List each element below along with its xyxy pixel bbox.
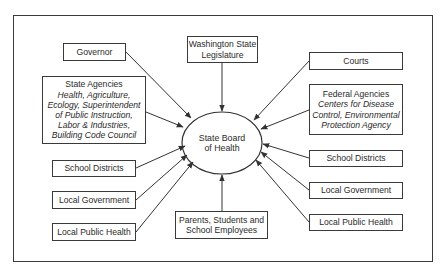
node-title: Courts (343, 56, 368, 66)
node-title: Governor (77, 47, 113, 57)
node-title: School Districts (64, 163, 123, 173)
node-detail-line: Building Code Council (52, 130, 137, 140)
node-detail-line: Protection Agency (321, 120, 390, 130)
edge-local-government-left (136, 155, 187, 200)
node-title-line-2: Legislature (201, 50, 243, 60)
node-school-districts-left: School Districts (52, 160, 136, 177)
node-local-public-health-left: Local Public Health (52, 223, 136, 241)
node-local-public-health-right: Local Public Health (309, 214, 403, 231)
node-local-government-right: Local Government (309, 182, 403, 199)
edge-local-government-right (261, 152, 309, 190)
edge-courts (254, 61, 309, 120)
node-parents-students-school-employees: Parents, Students and School Employees (175, 211, 268, 239)
node-detail-line: Health, Agriculture, (58, 90, 131, 100)
edge-state-agencies (146, 112, 183, 127)
node-title: Local Government (321, 185, 391, 195)
node-detail-line: of Public Instruction, (55, 110, 132, 120)
node-title-line-1: Parents, Students and (179, 215, 264, 225)
center-label-line-2: of Health (204, 143, 239, 153)
node-detail-line: Ecology, Superintendent (47, 100, 140, 110)
node-federal-agencies: Federal Agencies Centers for Disease Con… (309, 84, 403, 135)
node-detail-line: Centers for Disease (318, 99, 394, 109)
edge-federal-agencies (261, 110, 309, 129)
node-title-line-1: Washington State (189, 39, 257, 49)
node-title: Local Public Health (57, 227, 131, 237)
node-courts: Courts (309, 52, 403, 70)
node-governor: Governor (63, 43, 126, 61)
node-detail-line: Control, Environmental (312, 110, 399, 120)
node-title: Federal Agencies (323, 89, 389, 99)
node-washington-state-legislature: Washington State Legislature (187, 36, 258, 63)
center-node-state-board-of-health: State Board of Health (182, 122, 262, 164)
center-label-line-1: State Board (199, 133, 245, 143)
node-local-government-left: Local Government (52, 191, 136, 209)
node-state-agencies: State Agencies Health, Agriculture, Ecol… (42, 76, 146, 144)
edge-school-districts-left (136, 146, 185, 168)
node-title: Local Government (59, 195, 129, 205)
node-detail-line: Labor & Industries, (58, 120, 130, 130)
node-title: Local Public Health (319, 217, 393, 227)
node-title: School Districts (326, 153, 385, 163)
diagram-canvas: State Board of Health Governor State Age… (0, 0, 447, 275)
node-title-line-2: School Employees (186, 225, 257, 235)
node-school-districts-right: School Districts (309, 150, 403, 167)
edge-school-districts-right (263, 144, 309, 158)
node-title: State Agencies (65, 79, 122, 89)
